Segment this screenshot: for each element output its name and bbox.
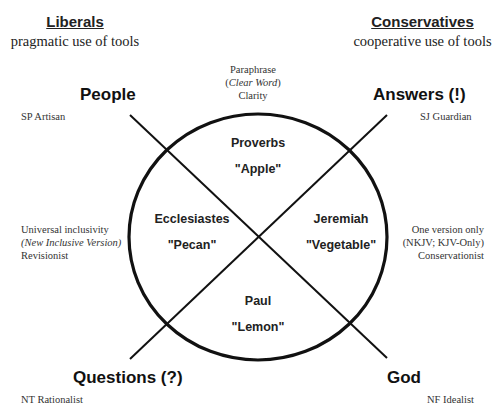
corner-note-sj-guardian: SJ Guardian: [420, 110, 472, 123]
clarity-label: Clarity: [205, 89, 301, 102]
corner-note-sp-artisan: SP Artisan: [21, 110, 65, 123]
conservatives-heading: Conservatives: [365, 13, 480, 30]
corner-note-nf-idealist: NF Idealist: [427, 393, 474, 406]
liberals-heading: Liberals: [30, 13, 120, 30]
liberals-subtitle: pragmatic use of tools: [5, 33, 145, 50]
quadrant-bottom-fruit: "Lemon": [208, 320, 308, 335]
quadrant-bottom-book: Paul: [245, 294, 271, 308]
quadrant-right-book: Jeremiah: [314, 212, 369, 226]
corner-note-nt-rationalist: NT Rationalist: [21, 393, 83, 406]
corner-label-answers: Answers (!): [373, 85, 466, 105]
revisionist-label: Revisionist: [21, 249, 131, 262]
corner-label-questions: Questions (?): [73, 368, 183, 388]
quadrant-left-book: Ecclesiastes: [154, 212, 229, 226]
quadrant-right-fruit: "Vegetable": [286, 238, 396, 253]
conservationist-label: Conservationist: [388, 249, 484, 262]
new-inclusive-version-label: (New Inclusive Version): [21, 236, 131, 249]
universal-inclusivity-label: Universal inclusivity: [21, 223, 131, 236]
corner-label-god: God: [387, 368, 421, 388]
corner-label-people: People: [80, 85, 136, 105]
paraphrase-label: Paraphrase: [205, 63, 301, 76]
quadrant-right: Jeremiah "Vegetable": [286, 212, 396, 253]
conservatives-subtitle: cooperative use of tools: [350, 33, 495, 50]
clear-word-label: (Clear Word): [205, 76, 301, 89]
one-version-note: One version only (NKJV; KJV-Only) Conser…: [388, 223, 484, 262]
nkjv-label: (NKJV; KJV-Only): [388, 236, 484, 249]
quadrant-bottom: Paul "Lemon": [208, 294, 308, 335]
quadrant-top: Proverbs "Apple": [208, 136, 308, 177]
quadrant-left-fruit: "Pecan": [137, 238, 247, 253]
universal-inclusivity-note: Universal inclusivity (New Inclusive Ver…: [21, 223, 131, 262]
quadrant-left: Ecclesiastes "Pecan": [137, 212, 247, 253]
one-version-label: One version only: [388, 223, 484, 236]
quadrant-top-fruit: "Apple": [208, 162, 308, 177]
quadrant-top-book: Proverbs: [231, 136, 285, 150]
paraphrase-note: Paraphrase (Clear Word) Clarity: [205, 63, 301, 102]
